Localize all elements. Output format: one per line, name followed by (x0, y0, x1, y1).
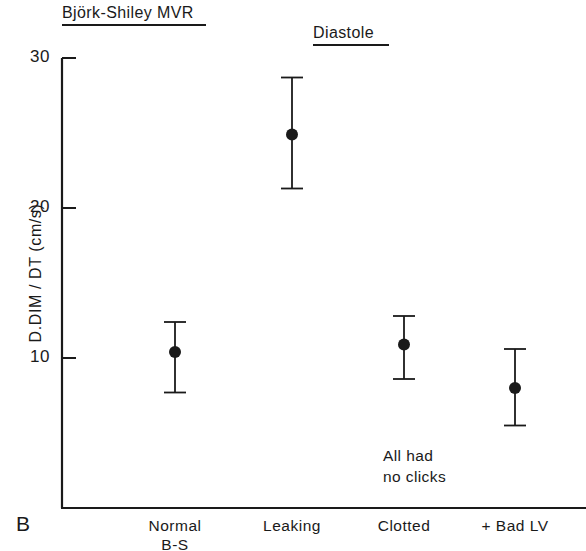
figure-panel-b: Björk-Shiley MVR Diastole D.DIM / DT (cm… (0, 0, 586, 551)
data-point-marker (509, 382, 521, 394)
y-axis-ticks (62, 58, 76, 358)
plot-area (0, 0, 586, 551)
x-axis-tick-label: Normal B-S (149, 516, 202, 551)
data-point-group (504, 349, 526, 426)
data-point-group (281, 78, 303, 189)
data-point-group (393, 316, 415, 379)
x-axis-tick-label: + Bad LV (481, 516, 548, 535)
chart-annotation: All had no clicks (383, 445, 446, 487)
data-series-diastole (164, 78, 526, 426)
y-axis-tick-label-text: 10 (6, 347, 50, 367)
data-point-marker (169, 346, 181, 358)
data-point-marker (286, 129, 298, 141)
x-axis-tick-label: Clotted (378, 516, 431, 535)
data-point-group (164, 322, 186, 393)
axis-lines (61, 58, 586, 508)
y-axis-tick-label-text: 30 (6, 47, 50, 67)
panel-label: B (16, 512, 31, 536)
y-axis-tick-label-text: 20 (6, 197, 50, 217)
x-axis-tick-label: Leaking (263, 516, 321, 535)
data-point-marker (398, 339, 410, 351)
